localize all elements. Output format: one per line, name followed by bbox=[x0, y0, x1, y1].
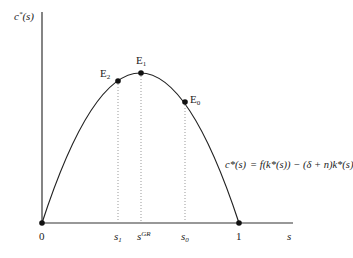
label-E2: E2 bbox=[100, 67, 111, 81]
label-E1: E1 bbox=[136, 54, 147, 68]
point-one bbox=[236, 220, 242, 226]
tick-one: 1 bbox=[236, 230, 242, 242]
y-axis-label: c*(s) bbox=[14, 10, 34, 23]
point-E2 bbox=[115, 78, 121, 84]
label-E0: E0 bbox=[190, 93, 201, 107]
tick-s1: s1 bbox=[114, 230, 122, 244]
tick-s0: s0 bbox=[181, 230, 189, 244]
origin-label: 0 bbox=[39, 230, 45, 242]
tick-sGR: sGR bbox=[137, 230, 151, 242]
curve-equation: c*(s)= f(k*(s)) − (δ + n)k*(s) bbox=[225, 159, 353, 171]
point-E1 bbox=[138, 70, 144, 76]
point-E0 bbox=[182, 99, 188, 105]
x-axis-label: s bbox=[287, 230, 291, 242]
point-origin bbox=[39, 220, 45, 226]
golden-rule-diagram: E2 E1 E0 c*(s) 0 s1 sGR s0 1 s c*(s)= f(… bbox=[0, 0, 353, 258]
